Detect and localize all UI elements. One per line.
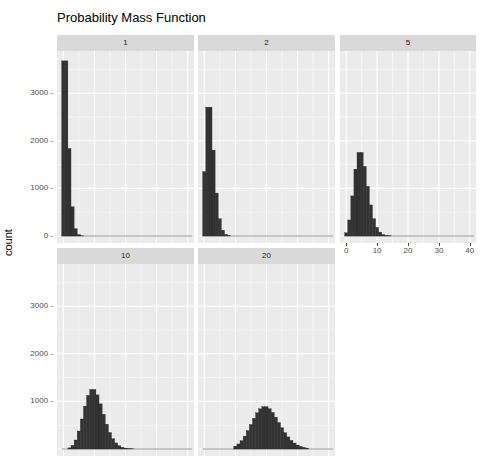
histogram-bar bbox=[372, 219, 375, 236]
facet-panel-5: 5 bbox=[340, 35, 476, 243]
histogram-bar bbox=[93, 389, 96, 449]
histogram-bar bbox=[354, 169, 357, 236]
histogram-bar bbox=[277, 422, 280, 449]
histogram-bar bbox=[385, 235, 388, 236]
histogram-bar bbox=[268, 409, 271, 449]
histogram-bar bbox=[118, 446, 121, 449]
histogram-bar bbox=[363, 166, 366, 236]
histogram-bar bbox=[111, 439, 114, 449]
histogram-bar bbox=[296, 445, 299, 449]
histogram-bar bbox=[80, 419, 83, 449]
histogram-bar bbox=[74, 229, 77, 236]
histogram-bar bbox=[99, 404, 102, 449]
histogram-bar bbox=[74, 440, 77, 449]
histogram-bar bbox=[68, 448, 71, 449]
histogram-bar bbox=[382, 234, 385, 236]
histogram-bar bbox=[249, 424, 252, 449]
histogram-bar bbox=[206, 107, 209, 236]
histogram-bar bbox=[265, 407, 268, 449]
histogram-bar bbox=[366, 186, 369, 236]
y-tick-label: 0 - bbox=[13, 231, 53, 240]
histogram-bar bbox=[271, 412, 274, 449]
histogram-bar bbox=[68, 148, 71, 236]
facet-panel-20: 20 bbox=[198, 248, 335, 456]
histogram-bar bbox=[108, 432, 111, 449]
x-tick-label: 30 bbox=[429, 246, 449, 255]
histogram-bar bbox=[256, 413, 259, 449]
histogram-bar bbox=[262, 407, 265, 449]
histogram-bar bbox=[302, 447, 305, 449]
facet-strip-label: 2 bbox=[198, 35, 335, 51]
facet-strip-label: 1 bbox=[57, 35, 194, 51]
histogram-bar bbox=[287, 437, 290, 449]
histogram-bar bbox=[83, 406, 86, 449]
facet-strip-label: 5 bbox=[340, 35, 476, 51]
histogram-bar bbox=[234, 446, 237, 449]
histogram-bar bbox=[221, 230, 224, 236]
x-tick-label: 20 bbox=[398, 246, 418, 255]
plot-area bbox=[198, 264, 335, 456]
histogram-bar bbox=[351, 196, 354, 236]
plot-area bbox=[340, 51, 476, 243]
plot-area bbox=[198, 51, 335, 243]
histogram-bar bbox=[102, 414, 105, 449]
y-tick-label: 2000 - bbox=[13, 349, 53, 358]
histogram-bar bbox=[77, 431, 80, 449]
histogram-bar bbox=[360, 152, 363, 236]
histogram-bar bbox=[305, 448, 308, 449]
x-tick-label: 0 bbox=[336, 246, 356, 255]
histogram-bar bbox=[348, 220, 351, 236]
histogram-bar bbox=[246, 431, 249, 449]
histogram-bar bbox=[212, 150, 215, 236]
facet-panel-1: 1 bbox=[57, 35, 194, 243]
histogram-bar bbox=[65, 61, 68, 236]
chart-title: Probability Mass Function bbox=[57, 10, 206, 25]
histogram-bar bbox=[299, 446, 302, 449]
histogram-bar bbox=[284, 433, 287, 449]
histogram-bar bbox=[281, 428, 284, 449]
x-tick-label: 10 bbox=[367, 246, 387, 255]
histogram-bar bbox=[121, 447, 124, 449]
plot-area bbox=[57, 264, 194, 456]
histogram-bar bbox=[77, 235, 80, 236]
histogram-bar bbox=[215, 193, 218, 236]
histogram-bar bbox=[90, 389, 93, 449]
y-tick-label: 1000 - bbox=[13, 396, 53, 405]
histogram-bar bbox=[357, 152, 360, 236]
histogram-bar bbox=[252, 418, 255, 449]
y-tick-label: 3000 - bbox=[13, 301, 53, 310]
y-tick-label: 2000 - bbox=[13, 136, 53, 145]
histogram-bar bbox=[243, 436, 246, 449]
x-tick-label: 40 bbox=[460, 246, 480, 255]
histogram-bar bbox=[218, 219, 221, 236]
histogram-bar bbox=[293, 443, 296, 449]
histogram-bar bbox=[105, 424, 108, 449]
histogram-bar bbox=[290, 440, 293, 449]
histogram-bar bbox=[259, 409, 262, 449]
histogram-bar bbox=[87, 395, 90, 449]
histogram-bar bbox=[379, 232, 382, 236]
histogram-bar bbox=[71, 207, 74, 236]
facet-strip-label: 20 bbox=[198, 248, 335, 264]
histogram-bar bbox=[345, 233, 348, 236]
histogram-bar bbox=[115, 443, 118, 449]
histogram-bar bbox=[224, 234, 227, 236]
histogram-bar bbox=[96, 395, 99, 449]
histogram-bar bbox=[124, 448, 127, 449]
histogram-bar bbox=[209, 107, 212, 236]
histogram-bar bbox=[203, 172, 206, 236]
histogram-bar bbox=[71, 445, 74, 449]
histogram-bar bbox=[62, 61, 65, 236]
y-tick-label: 1000 - bbox=[13, 183, 53, 192]
facet-strip-label: 10 bbox=[57, 248, 194, 264]
histogram-bar bbox=[274, 417, 277, 449]
plot-area bbox=[57, 51, 194, 243]
histogram-bar bbox=[240, 441, 243, 449]
facet-panel-10: 10 bbox=[57, 248, 194, 456]
y-tick-label: 3000 - bbox=[13, 88, 53, 97]
histogram-bar bbox=[376, 227, 379, 236]
facet-panel-2: 2 bbox=[198, 35, 335, 243]
histogram-bar bbox=[237, 444, 240, 449]
histogram-bar bbox=[369, 205, 372, 236]
